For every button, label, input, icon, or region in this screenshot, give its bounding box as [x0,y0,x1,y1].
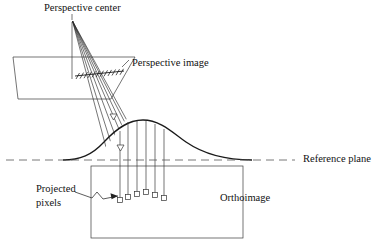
label-perspective-center: Perspective center [44,2,121,13]
perspective-image-plane [13,57,135,99]
label-perspective-image: Perspective image [132,57,209,68]
terrain-triangle-marker [110,114,117,120]
label-orthoimage: Orthoimage [220,192,270,203]
projected-pixel-square [135,192,140,197]
label-projected-pixels-line2: pixels [36,197,61,208]
projected-pixel-square [118,198,123,203]
projected-pixel-square [153,193,158,198]
ray-terrain-mask [60,109,376,247]
perspective-image-leader [122,60,129,67]
projected-pixel-square [144,190,149,195]
diagram-canvas: Perspective center Perspective image Ref… [0,0,376,247]
label-reference-plane: Reference plane [303,153,371,164]
projected-pixel-square [126,195,131,200]
label-projected-pixels-line1: Projected [36,183,76,194]
orthoimage-projection-diagram: Perspective center Perspective image Ref… [0,0,376,247]
projected-pixel-square [162,196,167,201]
